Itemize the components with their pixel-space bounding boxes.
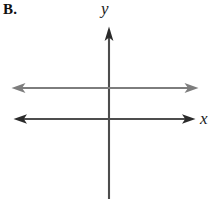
y-axis-label: y [101, 0, 109, 18]
graph-line-horizontal [12, 83, 199, 93]
coordinate-plane-diagram [0, 0, 220, 199]
x-axis-label: x [200, 110, 208, 128]
figure-container: B. y x [0, 0, 220, 199]
x-axis [14, 114, 196, 124]
y-axis [105, 27, 114, 200]
